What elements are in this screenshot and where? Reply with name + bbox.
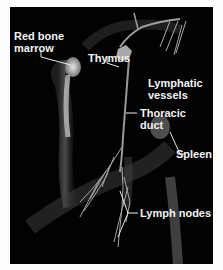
label-thoracic-duct: Thoracic duct — [140, 107, 186, 131]
label-line: Thoracic — [140, 107, 186, 119]
label-red-bone-marrow: Red bone marrow — [14, 30, 64, 54]
label-line: Red bone — [14, 30, 64, 42]
thoracic-duct — [120, 59, 129, 172]
label-line: Lymphatic — [148, 77, 203, 89]
label-line: duct — [140, 119, 186, 131]
label-line: vessels — [148, 89, 203, 101]
label-lymphatic-vessels: Lymphatic vessels — [148, 77, 203, 101]
label-line: marrow — [14, 42, 64, 54]
label-spleen: Spleen — [176, 148, 212, 160]
label-lymph-nodes: Lymph nodes — [140, 207, 211, 219]
label-thymus: Thymus — [88, 52, 130, 64]
bone-marrow-shape — [65, 57, 81, 77]
lymphatic-system-figure: Red bone marrow Thymus Lymphatic vessels… — [10, 7, 213, 264]
